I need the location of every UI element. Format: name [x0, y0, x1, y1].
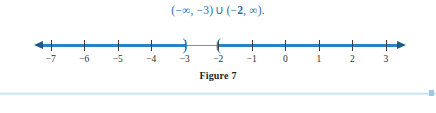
tick-mark: [252, 40, 253, 51]
arrow-right-icon: [397, 41, 406, 49]
tick-label: −7: [38, 53, 64, 65]
comma-2: ,: [243, 4, 246, 16]
tick-label: −4: [138, 53, 164, 65]
tick-mark: [118, 40, 119, 51]
comma-1: ,: [190, 4, 193, 16]
tick-label: 2: [339, 53, 365, 65]
open-endpoint-neg2: (: [212, 37, 224, 53]
tick-mark: [151, 40, 152, 51]
tick-mark: [51, 40, 52, 51]
figure-page: (−∞, −3)∪(−2, ∞). −7−6−5−4−3−2−10123 )( …: [0, 0, 436, 113]
figure-caption: Figure 7: [0, 70, 436, 81]
shaded-ray-right: [218, 44, 398, 47]
arrow-left-icon: [34, 41, 43, 49]
tick-label: −6: [71, 53, 97, 65]
tick-mark: [352, 40, 353, 51]
tick-mark: [84, 40, 85, 51]
open-endpoint-neg3: ): [179, 37, 191, 53]
tick-label: −1: [239, 53, 265, 65]
number-line: −7−6−5−4−3−2−10123 )(: [34, 38, 406, 54]
tick-label: 1: [306, 53, 332, 65]
interval-notation: (−∞, −3)∪(−2, ∞).: [0, 3, 436, 17]
tick-mark: [386, 40, 387, 51]
shaded-ray-left: [40, 44, 185, 47]
tick-mark: [285, 40, 286, 51]
tick-label: −2: [205, 53, 231, 65]
tick-label: 0: [272, 53, 298, 65]
positive-infinity: ∞: [249, 4, 257, 16]
tick-label: −5: [105, 53, 131, 65]
negative-three: −3: [197, 4, 210, 16]
period: .: [262, 4, 265, 16]
union-symbol: ∪: [213, 4, 226, 16]
bottom-rule-end-marker: [429, 90, 434, 96]
negative-infinity: −∞: [175, 4, 190, 16]
tick-label: 3: [373, 53, 399, 65]
tick-label: −3: [172, 53, 198, 65]
tick-mark: [319, 40, 320, 51]
bottom-divider-rule: [0, 92, 436, 95]
